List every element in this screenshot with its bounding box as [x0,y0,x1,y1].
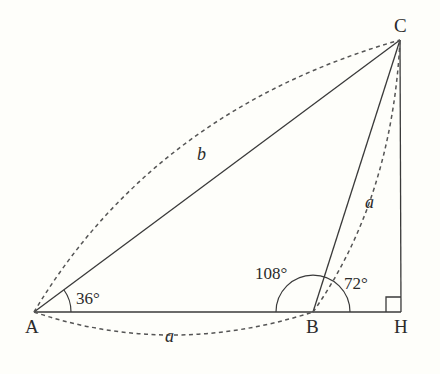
length-label-b: b [197,144,206,164]
angle-label-B-exterior: 108° [255,264,287,283]
segment-CH [400,40,401,312]
length-label-a-right: a [365,192,374,212]
angle-label-A: 36° [76,289,100,308]
right-angle-marker [386,297,401,312]
length-label-a-bottom: a [165,326,174,346]
point-label-H: H [394,316,408,337]
segment-AC [34,40,400,312]
segment-BC [313,40,400,312]
angle-label-B-interior: 72° [344,274,368,293]
point-label-C: C [394,15,407,36]
point-label-A: A [25,316,39,337]
triangle-diagram: C A B H 36° 108° 72° b a a [0,0,440,374]
point-label-B: B [306,316,319,337]
angle-arc-A [64,290,71,312]
